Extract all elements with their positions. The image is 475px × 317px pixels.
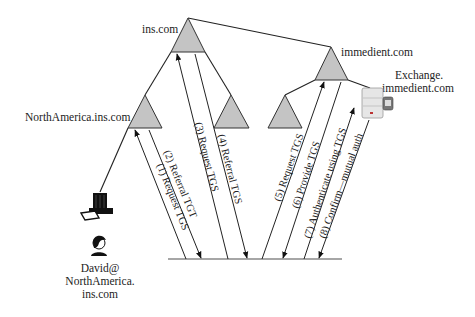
edge-immedient-to-exchange bbox=[348, 80, 370, 88]
label-exchange-line2: immedient.com bbox=[382, 82, 454, 94]
label-immedient: immedient.com bbox=[341, 46, 413, 58]
edge-northamerica-to-pc bbox=[100, 128, 128, 192]
edge-ins-to-immedient bbox=[188, 18, 331, 47]
label-user-line1: David@ bbox=[81, 262, 120, 275]
edge-ins-to-child bbox=[205, 52, 231, 95]
label-msg-4: (4) Referral TGS bbox=[215, 133, 244, 205]
label-ins: ins.com bbox=[142, 23, 178, 35]
edge-ins-to-northamerica bbox=[145, 52, 171, 95]
domain-triangle-ins-child[interactable] bbox=[214, 95, 249, 128]
edge-immedient-to-child bbox=[285, 80, 315, 95]
label-user-line3: ins.com bbox=[82, 288, 118, 300]
domain-triangle-immedient-child[interactable] bbox=[268, 95, 302, 128]
label-msg-3: (3) Request TGS bbox=[192, 121, 221, 193]
label-msg-4-group: (4) Referral TGS bbox=[215, 133, 244, 205]
kerberos-diagram: ins.com NorthAmerica.ins.com immedient.c… bbox=[0, 0, 475, 317]
label-user-line2: NorthAmerica. bbox=[65, 275, 134, 287]
user-avatar-icon bbox=[91, 236, 107, 256]
label-exchange-line1: Exchange. bbox=[395, 69, 443, 82]
label-northamerica: NorthAmerica.ins.com bbox=[25, 111, 130, 123]
computer-icon[interactable] bbox=[81, 193, 113, 220]
domain-triangle-northamerica[interactable] bbox=[128, 95, 162, 128]
label-msg-3-group: (3) Request TGS bbox=[192, 121, 221, 193]
